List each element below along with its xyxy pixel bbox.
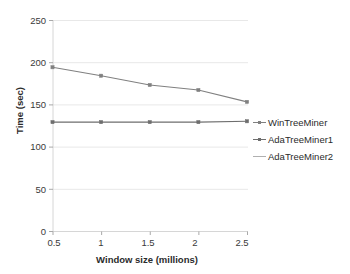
x-tick-label-1-5: 1.5: [135, 238, 161, 248]
line-chart: 250 200 150 100 50 0 0.5 1 1.5 2 2.5 Tim…: [0, 0, 350, 274]
y-tick-label-50: 50: [16, 185, 46, 195]
y-tick-label-0: 0: [16, 227, 46, 237]
legend-item-wintreeminer[interactable]: WinTreeMiner: [253, 115, 333, 130]
y-axis-title: Time (sec): [14, 71, 25, 151]
legend-line-icon-adatreeminer2: [253, 152, 266, 162]
legend-line-icon-adatreeminer1: [253, 135, 266, 145]
y-tick-label-200: 200: [16, 58, 46, 68]
legend-item-adatreeminer1[interactable]: AdaTreeMiner1: [253, 132, 333, 147]
x-tick-label-2-5: 2.5: [229, 238, 255, 248]
x-axis-title: Window size (millions): [52, 254, 242, 265]
x-tick-label-0-5: 0.5: [41, 238, 67, 248]
legend-label-wintreeminer: WinTreeMiner: [268, 118, 327, 128]
legend-item-adatreeminer2[interactable]: AdaTreeMiner2: [253, 149, 333, 164]
x-tick-label-1: 1: [88, 238, 114, 248]
legend-line-icon-wintreeminer: [253, 118, 266, 128]
y-tick-label-250: 250: [16, 16, 46, 26]
legend-label-adatreeminer1: AdaTreeMiner1: [268, 135, 333, 145]
legend-label-adatreeminer2: AdaTreeMiner2: [268, 152, 333, 162]
x-tick-label-2: 2: [182, 238, 208, 248]
chart-legend: WinTreeMiner AdaTreeMiner1 AdaTreeMiner2: [253, 115, 333, 166]
